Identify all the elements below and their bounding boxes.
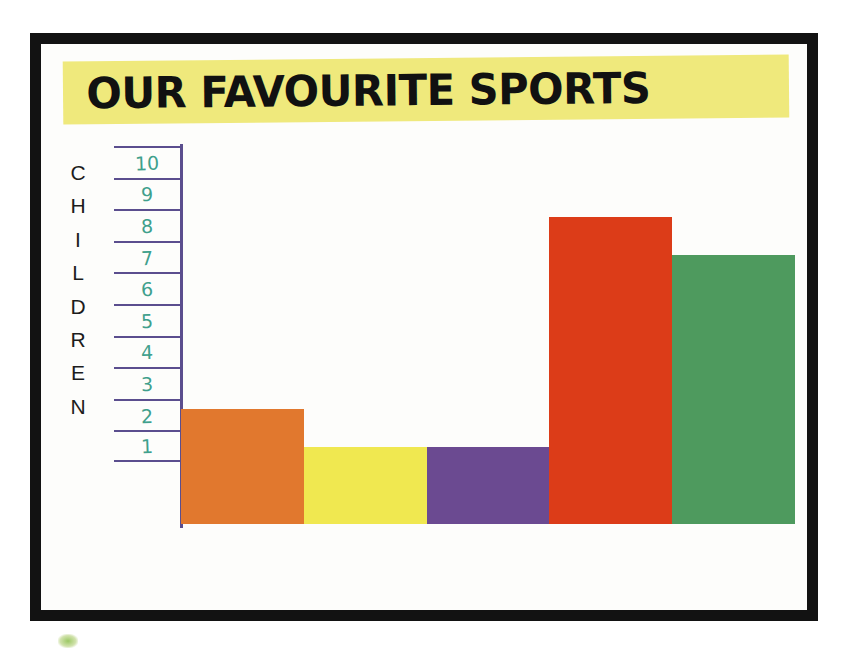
y-tick-label: 2: [141, 404, 154, 426]
bar-athletics[interactable]: [181, 409, 304, 524]
y-tick-label: 1: [141, 435, 154, 457]
bar-tennis[interactable]: [427, 447, 550, 524]
gridline-row: 5: [114, 304, 181, 336]
y-axis-letter: D: [70, 290, 85, 323]
y-axis-letter: E: [71, 356, 85, 389]
gridline-row: 1: [114, 430, 181, 462]
chart-poster: OUR FAVOURITE SPORTS C H I L D R E N 10 …: [30, 33, 818, 621]
gridline-row: 3: [114, 367, 181, 399]
bar-swimming[interactable]: [549, 217, 672, 524]
bar-table-tennis[interactable]: [304, 447, 427, 524]
bar-slot-table-tennis: [304, 140, 427, 524]
gridline-row: 9: [114, 178, 181, 210]
y-tick-label: 9: [141, 183, 154, 205]
y-axis-letter: H: [70, 189, 85, 222]
gridline-row: 8: [114, 209, 181, 241]
bar-football[interactable]: [672, 255, 795, 524]
y-axis-letter: N: [70, 390, 85, 423]
y-tick-label: 6: [141, 278, 154, 300]
page-title: OUR FAVOURITE SPORTS: [63, 62, 651, 118]
y-tick-label: 3: [141, 373, 154, 395]
y-axis-letter: L: [72, 256, 84, 289]
category-label-table: SPORTS athletics table tennis: [41, 620, 807, 621]
gridline-row: 2: [114, 399, 181, 431]
gridline-row: 6: [114, 272, 181, 304]
y-axis-label: C H I L D R E N: [63, 156, 93, 423]
y-tick-label: 7: [141, 246, 154, 268]
bar-slot-football: [672, 140, 795, 524]
bar-series: [181, 140, 795, 524]
gridline-row: 7: [114, 241, 181, 273]
chart-plot-area: C H I L D R E N 10 9 8 7 6 5 4 3 2 1: [41, 140, 807, 610]
y-axis-letter: C: [70, 156, 85, 189]
green-smudge: [58, 634, 78, 648]
y-axis-letter: I: [75, 223, 81, 256]
y-tick-label: 8: [141, 215, 154, 237]
bar-slot-swimming: [549, 140, 672, 524]
y-tick-label: 4: [141, 341, 154, 363]
bar-slot-tennis: [427, 140, 550, 524]
title-banner: OUR FAVOURITE SPORTS: [63, 55, 790, 125]
gridline-row: 10: [114, 146, 181, 178]
gridline-row: 4: [114, 336, 181, 368]
y-tick-label: 10: [135, 151, 160, 174]
y-axis-letter: R: [70, 323, 85, 356]
y-tick-label: 5: [141, 310, 154, 332]
y-axis-scale: 10 9 8 7 6 5 4 3 2 1: [114, 146, 181, 494]
bar-slot-athletics: [181, 140, 304, 524]
